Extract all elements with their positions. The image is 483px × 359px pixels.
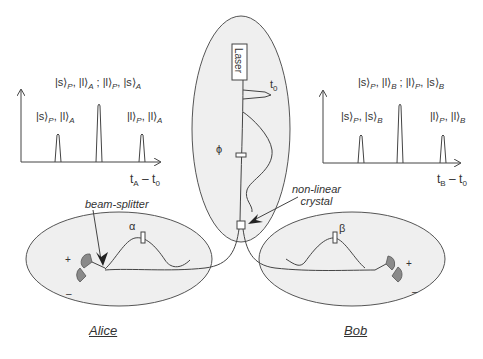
bob-beta-label: β [339,222,345,234]
alice-phase-shifter [141,232,145,243]
bob-peak-center-label: |s⟩P, |l⟩B ; |l⟩P, |s⟩B [358,76,444,91]
crystal-label-line1: non-linear [292,183,341,195]
phase-shifter-phi [236,153,246,157]
crystal-label-line2: crystal [292,195,341,207]
t0-sub: 0 [273,84,277,93]
alice-timing-chart [21,90,160,162]
bob-timing-chart [323,91,460,163]
nonlinear-crystal [237,221,245,229]
crystal-label: non-linear crystal [292,183,341,207]
bob-minus-label: – [412,286,418,297]
laser-label: Laser [233,48,244,73]
bob-name: Bob [344,323,367,338]
t0-label: t0 [270,78,278,93]
alice-peak-left-label: |s⟩P, |l⟩A [36,110,74,125]
alice-minus-label: – [66,288,72,299]
phi-label: ϕ [216,143,222,155]
bob-phase-shifter [333,232,337,243]
alice-peak-right-label: |l⟩P, |l⟩A [127,110,162,125]
alice-chart-xlabel: tA – t0 [130,172,160,188]
alice-alpha-label: α [129,220,135,232]
bob-chart-xlabel: tB – t0 [437,172,467,188]
alice-ellipse [26,212,212,306]
alice-name: Alice [89,323,117,338]
bob-peak-right-label: |l⟩P, |l⟩B [430,110,465,125]
bob-plus-label: + [406,258,412,269]
alice-plus-label: + [65,254,71,265]
alice-peak-center-label: |s⟩P, |l⟩A ; |l⟩P, |s⟩A [55,76,141,91]
bob-peak-left-label: |s⟩P, |s⟩B [341,110,383,125]
beam-splitter-label: beam-splitter [85,198,149,210]
